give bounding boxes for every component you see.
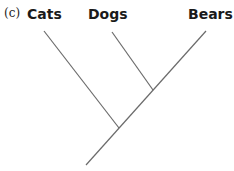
branch-bears-to-root [86,31,206,165]
branch-cats [44,31,119,128]
branch-dogs [112,32,153,90]
cladogram-tree [0,0,234,171]
